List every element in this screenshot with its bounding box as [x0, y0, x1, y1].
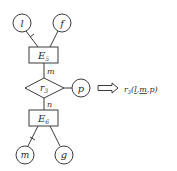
attribute-m-label: m	[21, 150, 30, 160]
attribute-g-label: g	[61, 149, 67, 160]
attribute-p-label: p	[78, 83, 85, 94]
edge-e6-g	[50, 126, 60, 146]
entity-e5: E5	[29, 47, 58, 63]
entity-e6: E6	[29, 110, 58, 126]
implies-arrow-icon	[98, 83, 118, 93]
attribute-m: m	[16, 146, 34, 164]
key-tick-l	[30, 34, 34, 37]
attribute-g: g	[55, 146, 73, 164]
attribute-f: f	[53, 14, 71, 32]
relation-schema: r3(l,m,p)	[124, 85, 158, 95]
attribute-p: p	[72, 79, 90, 97]
attribute-l: l	[13, 14, 31, 32]
cardinality-m: m	[47, 67, 55, 76]
edge-e6-m	[28, 126, 38, 146]
relationship-r3: r3	[25, 78, 64, 98]
edge-l-e5	[26, 31, 38, 47]
edge-f-e5	[50, 31, 58, 47]
er-diagram: l f E5 m r3 p n E6 m g r3(l,m,p)	[0, 0, 177, 171]
cardinality-n: n	[47, 100, 52, 109]
attribute-l-label: l	[20, 18, 23, 29]
